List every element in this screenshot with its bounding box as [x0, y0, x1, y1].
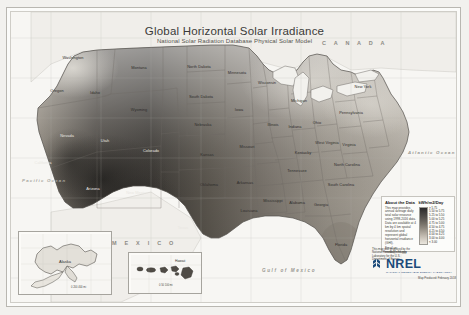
color-ramp — [419, 207, 428, 245]
state-label: South Carolina — [328, 182, 354, 187]
state-label: Alabama — [289, 200, 305, 205]
state-label: Kentucky — [295, 150, 311, 155]
label-gulf-of-mexico: Gulf of Mexico — [262, 268, 316, 273]
legend-panel: About the Data This map provides annual … — [381, 196, 455, 252]
about-the-data-heading: About the Data — [385, 200, 417, 205]
state-label: Wisconsin — [258, 80, 276, 85]
nrel-wordmark: NREL — [386, 258, 421, 270]
state-label: Indiana — [288, 124, 301, 129]
state-label: Wyoming — [131, 107, 148, 112]
inset-hawaii-title: Hawaii — [175, 259, 185, 263]
label-atlantic-ocean: Atlantic Ocean — [408, 150, 456, 155]
state-label: Texas — [178, 225, 188, 230]
state-label: Washington — [63, 55, 84, 60]
map-production-caption: Map Produced: February 2018 — [372, 276, 456, 280]
state-label: Montana — [131, 65, 147, 70]
state-label: West Virginia — [315, 140, 338, 145]
state-label: North Carolina — [334, 162, 360, 167]
state-label: Mississippi — [263, 198, 282, 203]
state-label: Louisiana — [240, 208, 257, 213]
about-the-data-body: This map provides annual average daily t… — [385, 207, 417, 246]
nrel-branding: NREL NATIONAL RENEWABLE ENERGY LABORATOR… — [372, 258, 456, 294]
label-canada: C A N A D A — [322, 40, 388, 46]
state-label: Nebraska — [194, 122, 211, 127]
state-label: Colorado — [143, 148, 159, 153]
solar-irradiance-poster: WashingtonOregonIdahoMontanaWyomingNevad… — [0, 0, 469, 315]
inset-hawaii-scalebar: 0 50 100 mi — [159, 284, 173, 287]
state-label: New Mexico — [126, 190, 148, 195]
state-label: California — [35, 160, 52, 165]
scale-title: kWh/m2/Day — [419, 200, 451, 205]
state-label: Idaho — [90, 90, 100, 95]
state-label: Oklahoma — [200, 182, 218, 187]
state-label: Michigan — [291, 98, 307, 103]
state-label: Pennsylvania — [339, 110, 363, 115]
state-label: New York — [355, 84, 372, 89]
color-ramp-tick-labels: > 5.755.50 to 5.755.25 to 5.505.00 to 5.… — [429, 207, 444, 245]
state-label: North Dakota — [187, 64, 211, 69]
state-label: Ohio — [313, 120, 321, 125]
state-label: Nevada — [60, 133, 74, 138]
inset-alaska-title: Alaska — [59, 259, 71, 264]
state-label: Georgia — [314, 202, 328, 207]
inset-alaska: Alaska 0 200 400 mi — [18, 231, 112, 295]
state-label: Illinois — [267, 122, 278, 127]
state-label: South Dakota — [189, 94, 213, 99]
state-label: Virginia — [342, 142, 355, 147]
poster-title: Global Horizontal Solar Irradiance — [0, 25, 469, 37]
state-label: Utah — [101, 138, 109, 143]
nrel-logo-icon — [372, 258, 384, 270]
alaska-map — [21, 234, 111, 294]
label-pacific-ocean: Pacific Ocean — [22, 178, 66, 183]
state-label: Minnesota — [228, 70, 246, 75]
state-label: Arkansas — [237, 180, 254, 185]
ramp-tick-label: < 3.00 — [429, 241, 444, 244]
hawaii-map — [131, 255, 201, 293]
inset-hawaii: Hawaii 0 50 100 mi — [128, 252, 202, 294]
state-label: Missouri — [240, 144, 255, 149]
state-label: Kansas — [200, 152, 213, 157]
state-label: Tennessee — [287, 168, 306, 173]
state-label: Iowa — [235, 107, 243, 112]
state-label: Florida — [335, 242, 347, 247]
nrel-tagline: NATIONAL RENEWABLE ENERGY LABORATORY — [386, 271, 456, 274]
inset-alaska-scalebar: 0 200 400 mi — [71, 286, 86, 289]
label-mexico: M E X I C O — [112, 240, 177, 246]
state-label: Arizona — [86, 186, 100, 191]
state-label: Oregon — [50, 88, 63, 93]
poster-subtitle: National Solar Radiation Database Physic… — [0, 38, 469, 44]
